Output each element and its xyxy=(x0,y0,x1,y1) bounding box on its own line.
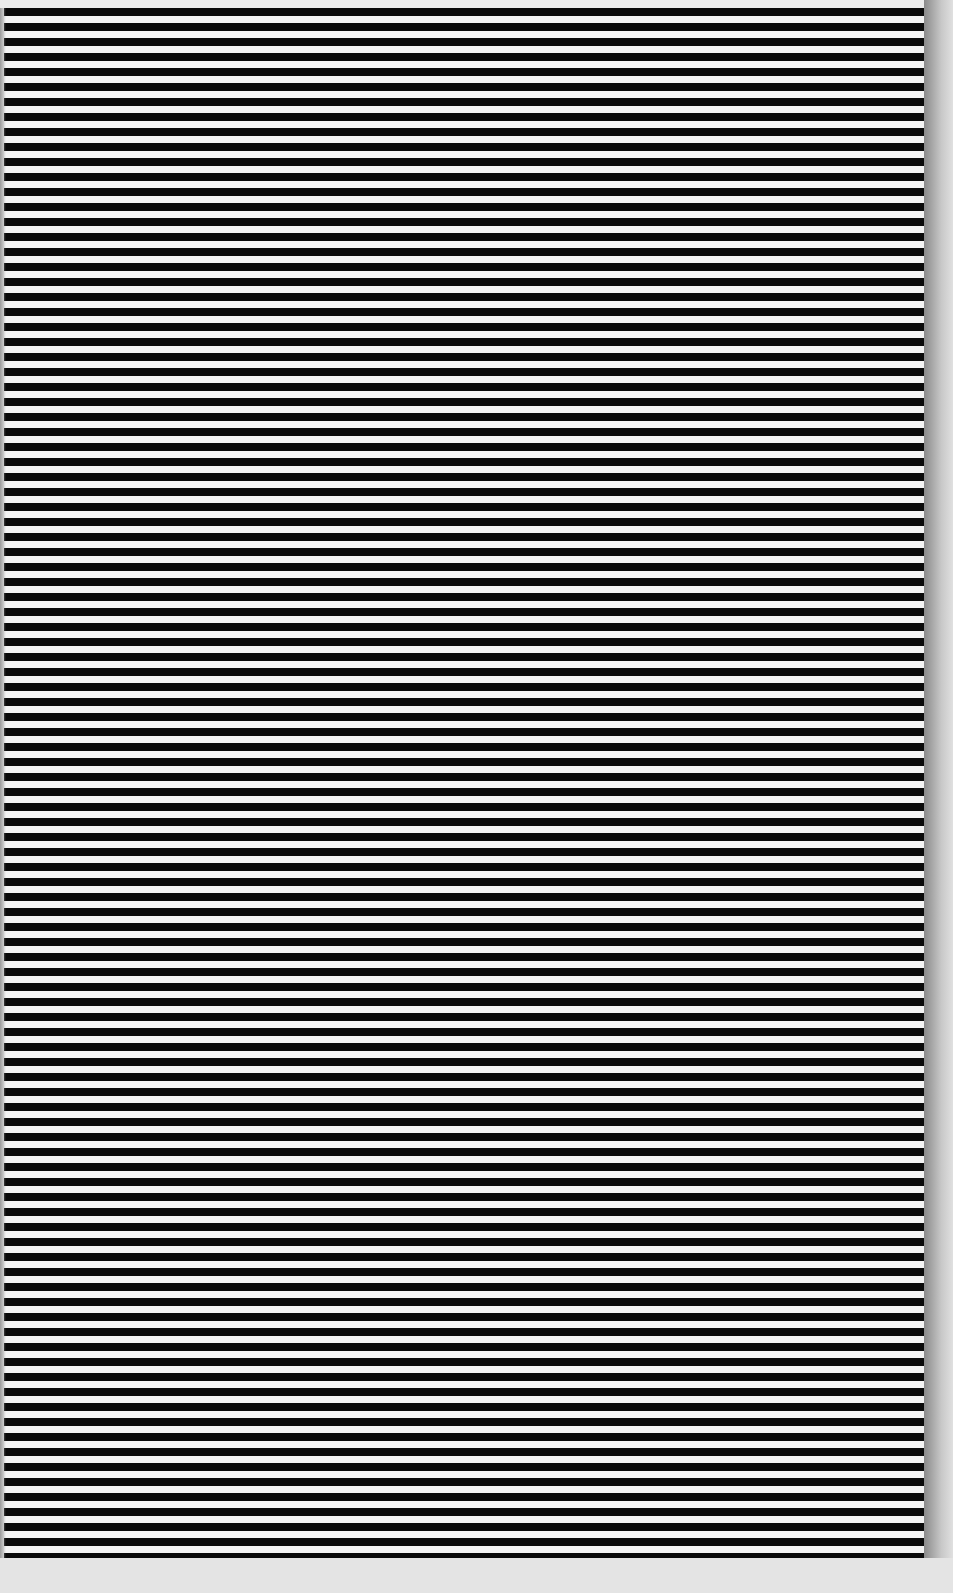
top-margin xyxy=(0,0,953,8)
right-shadow xyxy=(924,0,953,1593)
striped-pattern xyxy=(4,8,932,1558)
bottom-margin xyxy=(0,1558,953,1593)
left-shadow xyxy=(0,8,6,1558)
